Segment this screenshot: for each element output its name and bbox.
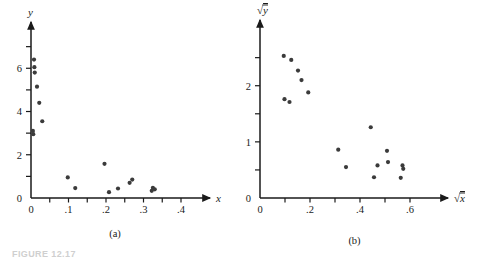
- data-point: [306, 90, 310, 94]
- svg-text:y: y: [27, 6, 33, 18]
- data-point: [73, 186, 77, 190]
- scatter-plot-a: 0.1.2.3.40246xy: [0, 0, 230, 230]
- data-point: [289, 58, 293, 62]
- x-axis-tick-label: .3: [140, 204, 148, 215]
- data-point: [336, 148, 340, 152]
- panel-a-caption: (a): [0, 228, 230, 239]
- data-point: [107, 190, 111, 194]
- data-point: [32, 65, 36, 69]
- data-point: [385, 149, 389, 153]
- y-axis-label: y: [27, 6, 33, 18]
- data-point: [344, 165, 348, 169]
- data-point: [375, 163, 379, 167]
- scatter-panel-b: 0.2.4.6012√x√y (b): [230, 0, 479, 259]
- data-point: [128, 181, 132, 185]
- x-axis-tick-label: .2: [102, 204, 110, 215]
- data-point: [299, 78, 303, 82]
- x-axis-tick-label: .6: [406, 204, 414, 215]
- data-point: [33, 70, 37, 74]
- data-point: [31, 132, 35, 136]
- data-point: [130, 178, 134, 182]
- figure-page: 0.1.2.3.40246xy (a) 0.2.4.6012√x√y (b) F…: [0, 0, 479, 259]
- data-point: [372, 175, 376, 179]
- data-point: [40, 119, 44, 123]
- data-point: [102, 162, 106, 166]
- data-point: [116, 186, 120, 190]
- data-point: [37, 101, 41, 105]
- data-point: [287, 100, 291, 104]
- svg-text:√y: √y: [257, 4, 268, 16]
- svg-text:x: x: [215, 192, 221, 204]
- data-point: [399, 176, 403, 180]
- x-axis-tick-label: .1: [65, 204, 73, 215]
- scatter-panel-a: 0.1.2.3.40246xy (a): [0, 0, 230, 259]
- data-point: [296, 68, 300, 72]
- data-point: [386, 160, 390, 164]
- data-point: [35, 85, 39, 89]
- y-axis-tick-label: 2: [17, 150, 22, 161]
- data-point: [153, 187, 157, 191]
- scatter-plot-b: 0.2.4.6012√x√y: [230, 0, 479, 235]
- y-axis-tick-label: 0: [17, 193, 22, 204]
- y-axis-tick-label: 4: [17, 106, 23, 117]
- y-axis-label: √y: [257, 4, 268, 16]
- x-axis-tick-label: 0: [257, 204, 262, 215]
- x-axis-tick-label: 0: [28, 204, 33, 215]
- y-axis-tick-label: 1: [246, 137, 251, 148]
- data-point: [32, 58, 36, 62]
- x-axis-label: √x: [454, 192, 465, 204]
- y-axis-tick-label: 6: [17, 63, 22, 74]
- data-point: [282, 97, 286, 101]
- x-axis-tick-label: .4: [177, 204, 186, 215]
- y-axis-tick-label: 2: [246, 81, 251, 92]
- svg-text:√x: √x: [454, 192, 465, 204]
- panel-b-caption: (b): [230, 235, 479, 246]
- data-point: [401, 167, 405, 171]
- x-axis-label: x: [215, 192, 221, 204]
- figure-number-caption: FIGURE 12.17: [12, 249, 76, 259]
- data-point: [369, 125, 373, 129]
- x-axis-tick-label: .2: [306, 204, 314, 215]
- y-axis-tick-label: 0: [246, 193, 251, 204]
- x-axis-tick-label: .4: [356, 204, 365, 215]
- data-point: [66, 175, 70, 179]
- data-point: [282, 54, 286, 58]
